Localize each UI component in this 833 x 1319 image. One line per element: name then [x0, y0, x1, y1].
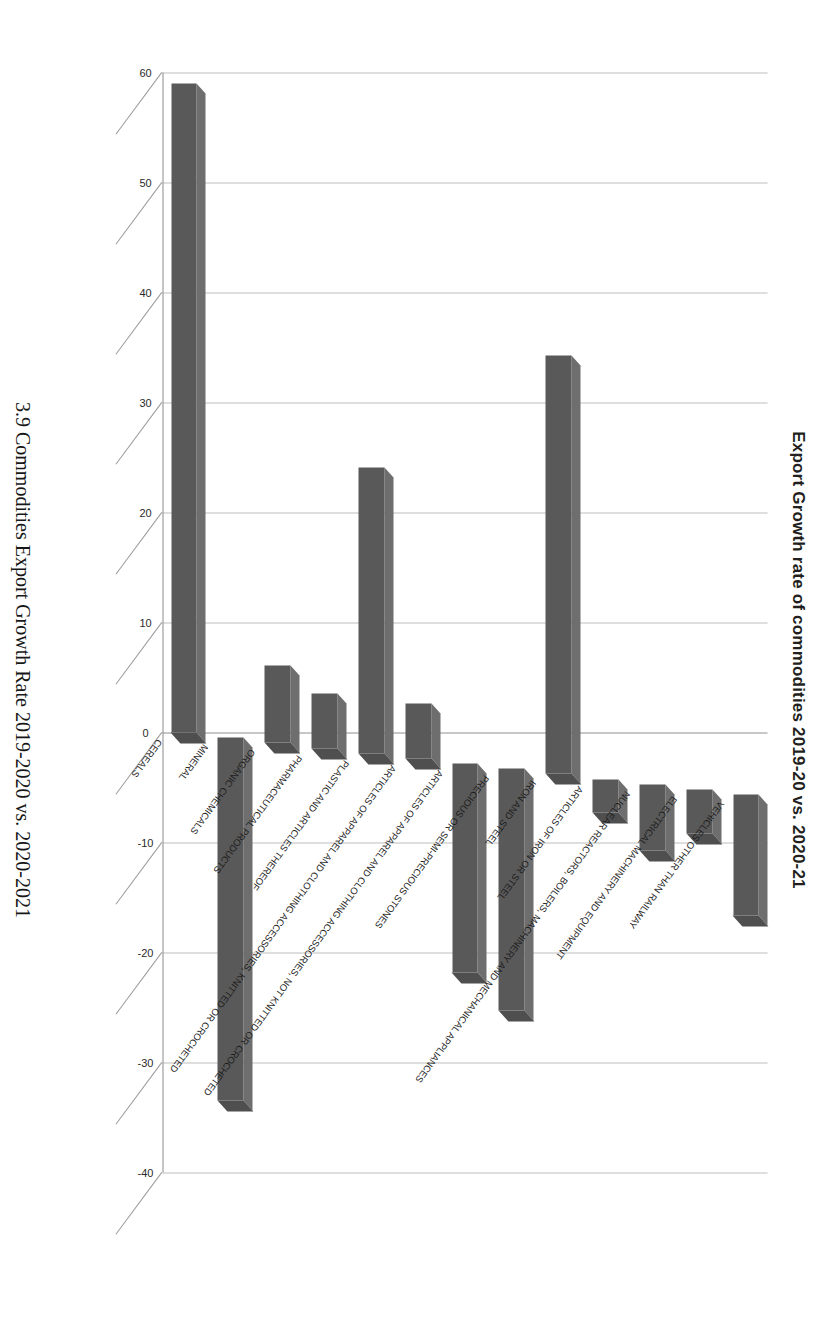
- rotated-figure-stage: Export Growth rate of commodities 2019-2…: [0, 0, 833, 1319]
- tick-label: 60: [139, 66, 151, 78]
- category-label: ARTICLES OF APPAREL AND CLOTHING ACCESSO…: [201, 768, 445, 1098]
- category-label: MINERAL: [177, 742, 211, 783]
- category-labels: CEREALSMINERALORGANIC CHEMICALSPHARMACEU…: [162, 72, 767, 1172]
- tick-label: -30: [137, 1056, 153, 1068]
- category-label: PRECIOUS OR SEMI-PRECIOUS STONES: [373, 773, 492, 931]
- tick-label: 40: [139, 286, 151, 298]
- tick-label: -20: [137, 946, 153, 958]
- category-label: IRON AND STEEL: [483, 778, 538, 848]
- tick-label: 0: [142, 726, 148, 738]
- chart-title: Export Growth rate of commodities 2019-2…: [787, 0, 807, 1319]
- category-label: PHARMACEUTICAL PRODUCTS: [211, 752, 304, 874]
- tick-label: 30: [139, 396, 151, 408]
- tick-label: -10: [137, 836, 153, 848]
- category-label: PLASTIC AND ARTICLES THEREOF: [249, 757, 351, 891]
- plot-area: CEREALSMINERALORGANIC CHEMICALSPHARMACEU…: [162, 72, 767, 1172]
- value-axis-line: [162, 72, 163, 1172]
- axis-depth-line: [115, 1171, 162, 1234]
- tick-label: 50: [139, 176, 151, 188]
- tick-label: -40: [137, 1166, 153, 1178]
- category-label: ARTICLES OF APPAREL AND CLOTHING ACCESSO…: [167, 763, 398, 1075]
- category-label: VEHICLES OTHER THAN RAILWAY: [626, 799, 726, 931]
- tick-label: 10: [139, 616, 151, 628]
- chart-figure: Export Growth rate of commodities 2019-2…: [0, 0, 833, 1319]
- figure-caption: 3.9 Commodities Export Growth Rate 2019-…: [10, 0, 33, 1319]
- value-axis-tick-labels: 6050403020100-10-20-30-40: [117, 72, 157, 1172]
- tick-label: 20: [139, 506, 151, 518]
- category-label: ARTICLES OF IRON OR STEEL: [495, 783, 585, 901]
